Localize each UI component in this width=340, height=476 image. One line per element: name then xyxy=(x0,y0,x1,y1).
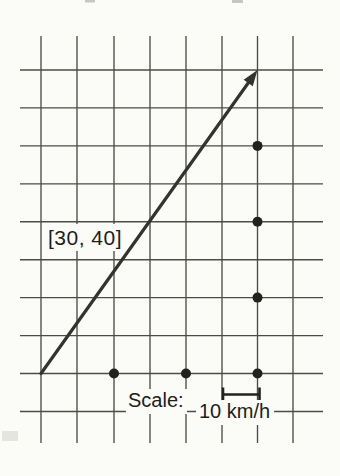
scale-caption: Scale: xyxy=(126,389,187,414)
vector-grid-diagram: [30, 40] Scale: 10 km/h xyxy=(0,0,340,476)
vector-components-label: [30, 40] xyxy=(45,224,125,251)
grid-marker-dot xyxy=(253,369,263,379)
scan-artifact xyxy=(2,431,18,441)
grid-marker-dot xyxy=(253,141,263,151)
grid-marker-dot xyxy=(253,217,263,227)
scale-value-label: 10 km/h xyxy=(196,400,274,425)
scan-artifact xyxy=(232,0,243,3)
grid-marker-dot xyxy=(109,369,119,379)
grid-marker-dot xyxy=(253,293,263,303)
scan-artifact xyxy=(85,0,95,3)
grid-marker-dot xyxy=(181,369,191,379)
